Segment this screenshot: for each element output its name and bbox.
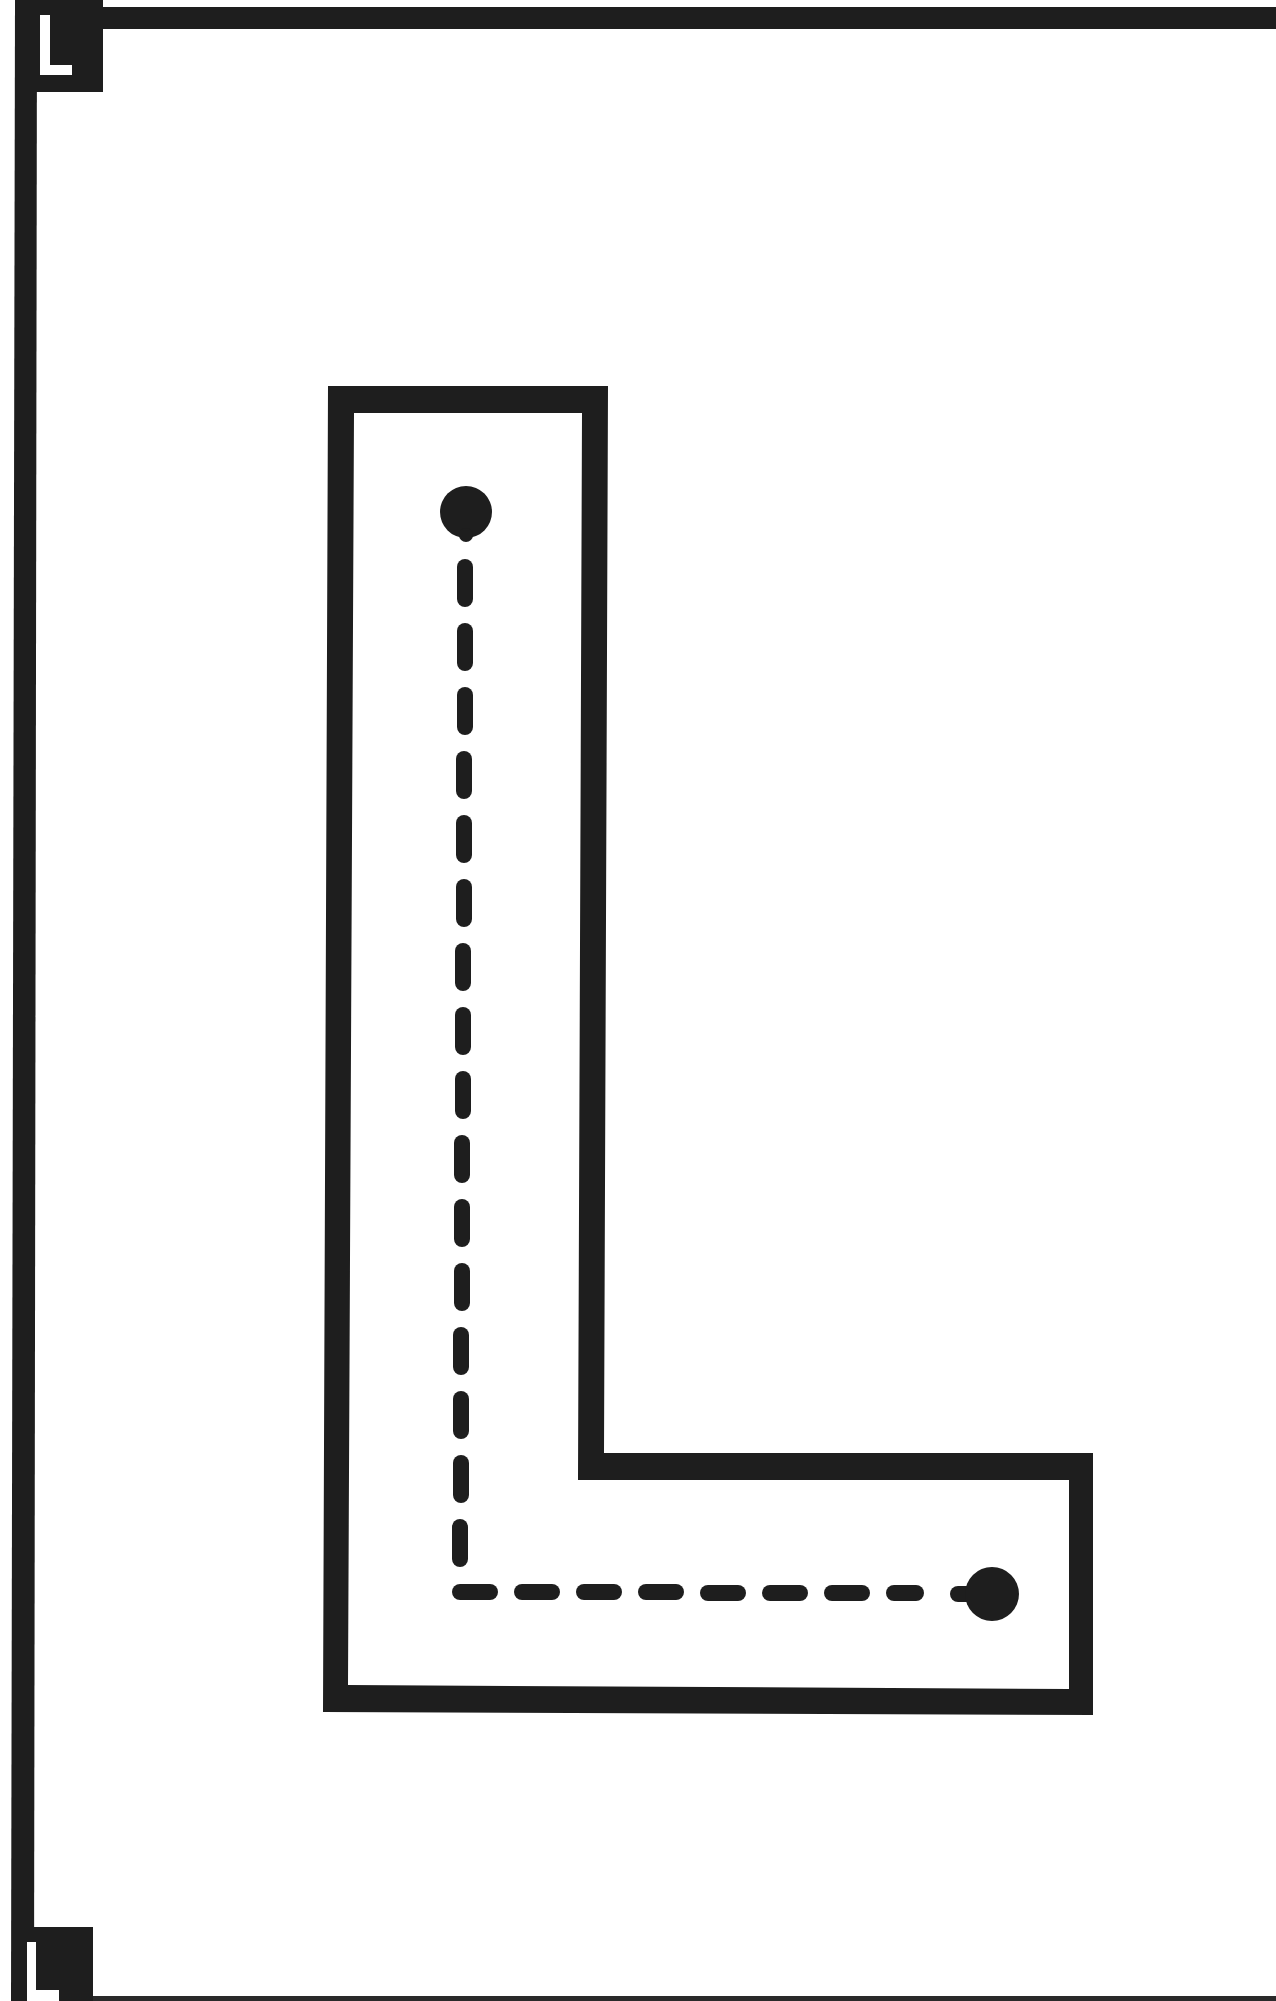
worksheet-canvas [0, 0, 1276, 2001]
vertical-trace-path[interactable] [460, 567, 465, 1559]
frame-top-border [15, 7, 1276, 29]
end-dot [965, 1567, 1019, 1621]
letter-tracing-worksheet: L [0, 0, 1276, 2001]
frame-left-border [11, 0, 37, 2001]
frame-bottom-border [26, 1996, 1276, 2001]
horizontal-trace-path[interactable] [460, 1592, 972, 1594]
corner-tab-bottom [26, 1927, 93, 2001]
corner-tab-top [15, 0, 103, 92]
letter-l-outline [323, 386, 1093, 1715]
start-dot [440, 486, 492, 542]
